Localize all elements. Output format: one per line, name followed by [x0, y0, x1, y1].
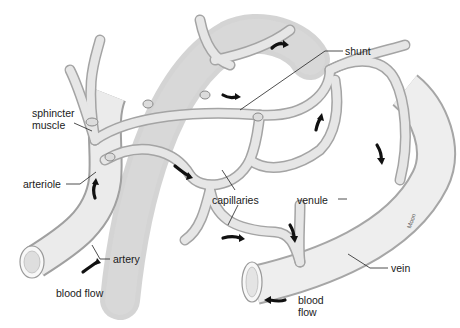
label-sphincter-muscle-line1: sphincter [32, 107, 75, 119]
arrow-icon [223, 237, 240, 239]
circulation-diagram [0, 0, 460, 328]
label-arteriole: arteriole [23, 178, 61, 190]
arrow-icon [94, 184, 96, 198]
label-artery: artery [113, 253, 140, 265]
label-capillaries: capillaries [212, 194, 259, 206]
arrow-icon [270, 300, 285, 301]
label-vein: vein [391, 262, 410, 274]
label-sphincter-muscle-line2: muscle [32, 119, 65, 131]
label-venule: venule [297, 194, 328, 206]
arrow-icon [377, 145, 381, 160]
arrow-icon [223, 95, 236, 98]
label-blood-flow-right-line1: blood [298, 294, 324, 306]
arrow-icon [316, 119, 320, 130]
label-blood-flow-left: blood flow [56, 287, 103, 299]
label-blood-flow-right-line2: flow [298, 306, 317, 318]
label-shunt: shunt [345, 45, 371, 57]
arrow-icon [83, 262, 97, 272]
